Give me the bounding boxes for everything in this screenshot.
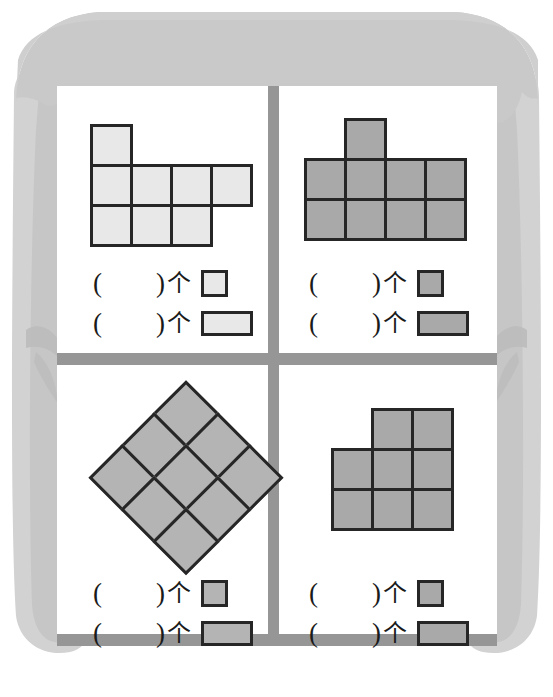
grid-cell — [411, 408, 454, 451]
legend-rectangle-swatch — [201, 621, 253, 646]
grid-cell — [331, 448, 374, 491]
pane-top-right: ( ) 个 ( ) 个 — [279, 86, 497, 353]
grid-cell — [371, 488, 414, 531]
grid-cell — [344, 158, 387, 201]
answer-row-square-bottom-left[interactable]: ( ) 个 — [93, 578, 228, 608]
legend-rectangle-swatch — [417, 621, 469, 646]
figure-bottom-left-diamond — [84, 380, 288, 584]
left-curtain-fold — [34, 352, 58, 404]
pane-bottom-left: ( ) 个 ( ) 个 — [57, 365, 268, 634]
pane-bottom-right: ( ) 个 ( ) 个 — [279, 365, 497, 634]
grid-cell — [170, 164, 213, 207]
grid-cell — [331, 488, 374, 531]
unit-character: 个 — [383, 271, 407, 295]
right-curtain-fold — [495, 352, 519, 404]
answer-blank-parentheses[interactable]: ( ) — [93, 310, 165, 337]
legend-rectangle-swatch — [201, 311, 253, 336]
answer-row-rectangle-bottom-right[interactable]: ( ) 个 — [309, 618, 469, 648]
grid-cell — [90, 204, 133, 247]
grid-cell — [384, 198, 427, 241]
unit-character: 个 — [383, 581, 407, 605]
grid-cell — [170, 204, 213, 247]
grid-cell — [424, 158, 467, 201]
answer-blank-parentheses[interactable]: ( ) — [309, 580, 381, 607]
grid-cell — [384, 158, 427, 201]
answer-blank-parentheses[interactable]: ( ) — [93, 620, 165, 647]
grid-cell — [130, 204, 173, 247]
grid-cell — [210, 164, 253, 207]
pane-top-left: ( ) 个 ( ) 个 — [57, 86, 268, 353]
answer-blank-parentheses[interactable]: ( ) — [309, 270, 381, 297]
grid-cell — [130, 164, 173, 207]
unit-character: 个 — [383, 311, 407, 335]
grid-cell — [304, 158, 347, 201]
window-mullion-vertical — [268, 86, 279, 645]
grid-cell — [411, 448, 454, 491]
grid-cell — [90, 124, 133, 167]
unit-character: 个 — [167, 581, 191, 605]
answer-row-rectangle-top-right[interactable]: ( ) 个 — [309, 308, 469, 338]
grid-cell — [304, 198, 347, 241]
unit-character: 个 — [167, 311, 191, 335]
grid-cell — [90, 164, 133, 207]
answer-blank-parentheses[interactable]: ( ) — [93, 580, 165, 607]
unit-character: 个 — [383, 621, 407, 645]
answer-blank-parentheses[interactable]: ( ) — [309, 310, 381, 337]
worksheet-page: ( ) 个 ( ) 个 ( ) 个 ( ) 个 — [0, 0, 553, 697]
answer-row-square-bottom-right[interactable]: ( ) 个 — [309, 578, 444, 608]
legend-square-swatch — [417, 580, 444, 607]
grid-cell — [424, 198, 467, 241]
legend-square-swatch — [201, 580, 228, 607]
grid-cell — [344, 198, 387, 241]
unit-character: 个 — [167, 271, 191, 295]
grid-cell — [411, 488, 454, 531]
answer-blank-parentheses[interactable]: ( ) — [93, 270, 165, 297]
answer-row-square-top-left[interactable]: ( ) 个 — [93, 268, 228, 298]
grid-cell — [344, 118, 387, 161]
grid-cell — [371, 448, 414, 491]
unit-character: 个 — [167, 621, 191, 645]
legend-rectangle-swatch — [417, 311, 469, 336]
answer-row-rectangle-top-left[interactable]: ( ) 个 — [93, 308, 253, 338]
legend-square-swatch — [201, 270, 228, 297]
answer-row-square-top-right[interactable]: ( ) 个 — [309, 268, 444, 298]
answer-blank-parentheses[interactable]: ( ) — [309, 620, 381, 647]
window-mullion-horizontal — [57, 353, 497, 365]
answer-row-rectangle-bottom-left[interactable]: ( ) 个 — [93, 618, 253, 648]
grid-cell — [371, 408, 414, 451]
legend-square-swatch — [417, 270, 444, 297]
